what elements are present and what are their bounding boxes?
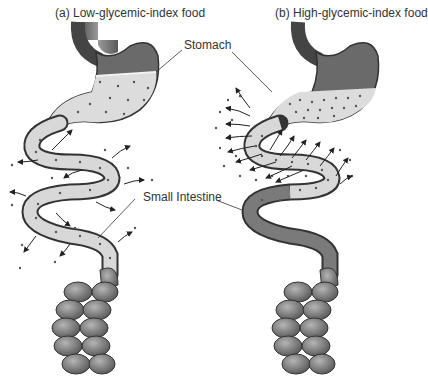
large-intestine-b bbox=[272, 268, 338, 374]
stomach-label: Stomach bbox=[184, 38, 231, 52]
panel-b-illustration bbox=[215, 22, 379, 374]
large-intestine-a bbox=[52, 268, 118, 374]
panel-a-title: (a) Low-glycemic-index food bbox=[55, 6, 205, 20]
panel-a-illustration bbox=[10, 22, 159, 374]
panel-b-title: (b) High-glycemic-index food bbox=[275, 6, 428, 20]
small-intestine-label: Small Intestine bbox=[143, 190, 222, 204]
